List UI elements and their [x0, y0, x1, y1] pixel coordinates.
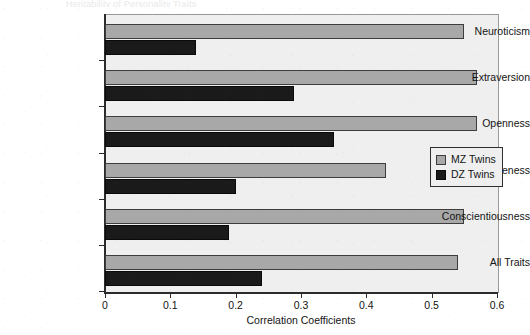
x-axis-tick	[432, 293, 433, 298]
x-axis-tick	[170, 293, 171, 298]
chart-legend: MZ Twins DZ Twins	[430, 147, 503, 187]
x-axis-title: Correlation Coefficients	[105, 314, 497, 326]
bar-mz-agreeableness	[105, 163, 386, 178]
bar-dz-agreeableness	[105, 179, 236, 194]
x-axis-tick-label: 0.3	[281, 299, 321, 311]
bar-mz-extraversion	[105, 70, 477, 85]
bar-mz-openness	[105, 116, 477, 131]
y-axis-label-openness: Openness	[434, 118, 530, 129]
y-axis-tick	[99, 106, 105, 107]
x-axis-tick	[366, 293, 367, 298]
y-axis-label-neuroticism: Neuroticism	[434, 26, 530, 37]
x-axis-tick-label: 0.1	[150, 299, 190, 311]
bar-mz-all-traits	[105, 255, 458, 270]
y-axis-tick	[99, 199, 105, 200]
x-axis-tick-label: 0.6	[477, 299, 517, 311]
y-axis-label-extraversion: Extraversion	[434, 72, 530, 83]
x-axis-tick	[301, 293, 302, 298]
bar-dz-neuroticism	[105, 40, 196, 55]
legend-swatch-mz-icon	[436, 155, 446, 165]
x-axis-tick-label: 0.5	[412, 299, 452, 311]
x-axis-tick	[497, 293, 498, 298]
bar-dz-extraversion	[105, 86, 294, 101]
y-axis-spine	[104, 14, 106, 293]
y-axis-tick	[99, 291, 105, 292]
y-axis-label-conscientiousness: Conscientiousness	[434, 211, 530, 222]
y-axis-label-all-traits: All Traits	[434, 257, 530, 268]
x-axis-tick-label: 0.2	[216, 299, 256, 311]
y-axis-tick	[99, 245, 105, 246]
x-axis-tick-label: 0	[85, 299, 125, 311]
legend-label-dz: DZ Twins	[451, 169, 495, 180]
legend-swatch-dz-icon	[436, 170, 446, 180]
legend-item-mz[interactable]: MZ Twins	[436, 152, 496, 167]
bar-dz-openness	[105, 132, 334, 147]
y-axis-tick	[99, 60, 105, 61]
bar-mz-conscientiousness	[105, 209, 464, 224]
bar-dz-conscientiousness	[105, 225, 229, 240]
bar-dz-all-traits	[105, 271, 262, 286]
legend-item-dz[interactable]: DZ Twins	[436, 167, 496, 182]
bar-mz-neuroticism	[105, 24, 464, 39]
y-axis-tick	[99, 153, 105, 154]
x-axis-tick-label: 0.4	[346, 299, 386, 311]
chart-title-sliver: Heritability of Personality Traits	[66, 0, 246, 7]
x-axis-tick	[236, 293, 237, 298]
x-axis-tick	[105, 293, 106, 298]
legend-label-mz: MZ Twins	[451, 154, 496, 165]
correlation-bar-chart: Heritability of Personality Traits Neuro…	[0, 0, 530, 335]
